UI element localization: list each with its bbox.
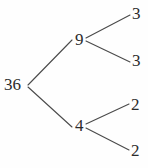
node-leaf-3-top: 3 [132, 5, 141, 22]
node-leaf-2-bottom: 2 [131, 142, 140, 159]
edge-root-to-upper [28, 40, 72, 85]
factor-tree-edges [0, 0, 148, 168]
edge-lower-to-leaf4 [86, 128, 129, 150]
node-leaf-2-third: 2 [131, 96, 140, 113]
node-root-36: 36 [4, 76, 21, 93]
node-branch-4: 4 [75, 117, 84, 134]
edge-upper-to-leaf2 [86, 41, 130, 62]
node-leaf-3-second: 3 [132, 52, 141, 69]
node-branch-9: 9 [75, 31, 84, 48]
edge-lower-to-leaf3 [86, 104, 129, 124]
factor-tree-diagram: 36 9 4 3 3 2 2 [0, 0, 148, 168]
edge-upper-to-leaf1 [86, 15, 130, 38]
edge-root-to-lower [28, 87, 72, 127]
